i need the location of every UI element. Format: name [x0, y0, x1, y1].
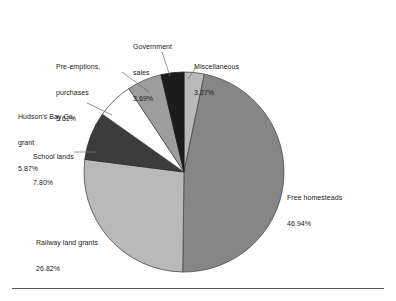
slice-value-free-homesteads: 46.94%	[287, 220, 342, 229]
slice-label-miscellaneous: Miscellaneous 3.27%	[194, 46, 239, 115]
slice-label-railway-land-grants: Railway land grants 26.82%	[36, 222, 98, 291]
slice-label-miscellaneous-line1: Miscellaneous	[194, 63, 239, 72]
slice-label-pre-emptions-line1: Pre-emptions,	[56, 63, 100, 72]
bottom-divider-rule	[12, 288, 384, 289]
slice-value-school-lands: 7.80%	[33, 179, 74, 188]
slice-label-school-lands-line1: School lands	[33, 153, 74, 162]
slice-label-free-homesteads: Free homesteads 46.94%	[287, 177, 342, 246]
slice-label-government-sales: Government sales 3.69%	[133, 26, 172, 121]
pie-slice-railway-land-grants[interactable]	[84, 159, 184, 272]
slice-label-free-homesteads-line1: Free homesteads	[287, 194, 342, 203]
slice-label-railway-land-grants-line1: Railway land grants	[36, 239, 98, 248]
slice-label-government-sales-line2: sales	[133, 69, 172, 78]
slice-label-school-lands: School lands 7.80%	[33, 136, 74, 205]
pie-chart-figure: Pre-emptions, purchases 5.62% Government…	[0, 0, 396, 301]
slice-label-government-sales-line1: Government	[133, 43, 172, 52]
slice-value-government-sales: 3.69%	[133, 95, 172, 104]
slice-value-miscellaneous: 3.27%	[194, 89, 239, 98]
slice-label-hudsons-bay-grant-line1: Hudson's Bay Co.	[18, 113, 75, 122]
pie-slice-group	[84, 72, 284, 272]
slice-value-railway-land-grants: 26.82%	[36, 265, 98, 274]
